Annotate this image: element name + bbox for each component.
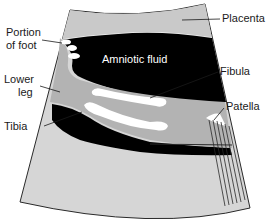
label-lower-leg-1: Lower bbox=[4, 73, 34, 85]
label-portion-of-foot-2: of foot bbox=[6, 39, 37, 51]
foot-bone-3 bbox=[68, 53, 80, 59]
label-fibula: Fibula bbox=[220, 65, 251, 77]
foot-bone-2 bbox=[67, 45, 77, 51]
label-tibia: Tibia bbox=[4, 120, 28, 132]
label-portion-of-foot-1: Portion bbox=[6, 26, 41, 38]
foot-bone-1 bbox=[61, 40, 71, 45]
label-amniotic-fluid: Amniotic fluid bbox=[102, 53, 167, 65]
diagram-svg: Placenta Amniotic fluid Portion of foot … bbox=[0, 0, 266, 220]
ultrasound-diagram: Placenta Amniotic fluid Portion of foot … bbox=[0, 0, 266, 220]
label-patella: Patella bbox=[226, 100, 261, 112]
label-placenta: Placenta bbox=[222, 12, 266, 24]
label-lower-leg-2: leg bbox=[18, 86, 33, 98]
